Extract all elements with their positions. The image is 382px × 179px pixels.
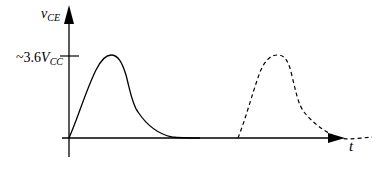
y-axis-label: vCE bbox=[41, 6, 60, 23]
diagram-canvas: vCE ~3.6VCC t bbox=[0, 0, 382, 179]
vce-waveform-diagram: vCE ~3.6VCC t bbox=[0, 0, 382, 179]
y-axis-arrow-icon bbox=[64, 5, 74, 24]
pulse-solid-curve bbox=[69, 55, 200, 138]
y-tick-label: ~3.6VCC bbox=[16, 50, 63, 67]
x-axis-label: t bbox=[349, 138, 354, 154]
pulse-dashed-curve bbox=[238, 55, 372, 139]
